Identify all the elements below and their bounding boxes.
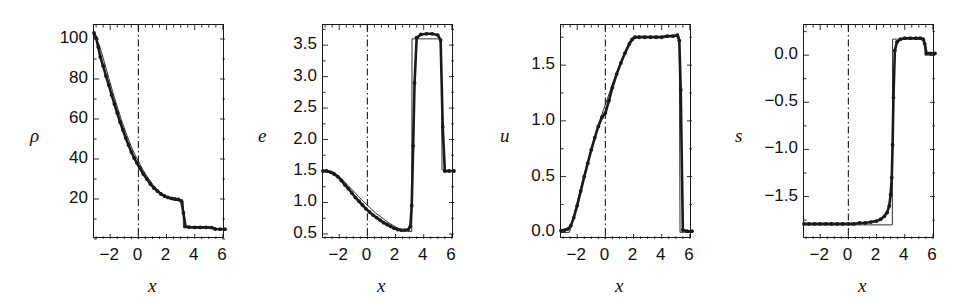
- y-tick-label: −1.0: [736, 139, 798, 156]
- y-tick-label: −1.5: [736, 187, 798, 204]
- series-markers: [802, 36, 937, 226]
- y-axis-label: s: [735, 126, 742, 145]
- axis-ticks: [804, 25, 935, 239]
- series-numerical: [804, 38, 935, 224]
- plot-frame: [803, 24, 934, 238]
- y-tick-label: 0.0: [736, 45, 798, 62]
- x-axis-label: x: [858, 276, 866, 295]
- series-exact: [804, 39, 935, 225]
- figure-multi-panel-plot: 20406080100−20246ρx0.51.01.52.02.53.03.5…: [0, 0, 969, 306]
- y-tick-label: −0.5: [736, 92, 798, 109]
- x-tick-label: 6: [912, 246, 952, 263]
- plot-canvas: [804, 25, 935, 239]
- panel-4: −1.5−1.0−0.50.0−20246sx: [0, 0, 969, 306]
